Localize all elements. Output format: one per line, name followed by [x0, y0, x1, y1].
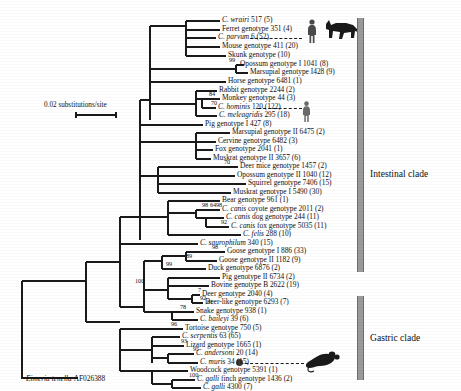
taxon-detail: Deer mice genotype 1457 (2) [240, 161, 327, 170]
taxon-detail: Horse genotype 6481 (1) [228, 76, 302, 85]
taxon-detail: 517 (5) [249, 15, 272, 24]
taxon-detail: 39 (6) [229, 314, 249, 323]
gastric-clade-label: Gastric clade [370, 332, 420, 343]
taxon-label: Skunk genotype (10) [228, 51, 290, 59]
bootstrap-value: 99 [166, 260, 172, 267]
taxon-label: C. wrairi 517 (5) [222, 16, 273, 24]
taxon-detail: 63 (65) [217, 331, 240, 340]
taxon-label: C. baileyi 39 (6) [200, 315, 248, 323]
taxon-label: Horse genotype 6481 (1) [228, 77, 302, 85]
taxon-detail: Monkey genotype 44 (3) [222, 93, 295, 102]
taxon-detail: 295 (18) [263, 110, 290, 119]
taxon-label: Bear genotype 961 (1) [222, 196, 288, 204]
taxon-species-name: C. andersoni [196, 348, 234, 357]
taxon-label: C. felis 288 (10) [243, 230, 291, 238]
mouse-silhouette [304, 350, 340, 374]
taxon-detail: Marsupial genotype I428 (9) [250, 67, 335, 76]
taxon-label: Squirrel genotype 7406 (15) [248, 179, 332, 187]
taxon-species-name: C. canis [226, 212, 250, 221]
taxon-detail: Skunk genotype (10) [228, 50, 290, 59]
taxon-label: Fox genotype 2041 (1) [215, 145, 283, 153]
bootstrap-value: 100 [189, 371, 198, 378]
taxon-detail: 20 (14) [234, 348, 257, 357]
taxon-detail: Bear genotype 961 (1) [222, 195, 288, 204]
taxon-detail: Squirrel genotype 7406 (15) [248, 178, 332, 187]
bootstrap-value: 100 [135, 277, 144, 284]
bootstrap-value: 98 [202, 201, 208, 208]
taxon-label: C. meleagridis 295 (18) [219, 111, 290, 119]
taxon-detail: 288 (10) [264, 229, 291, 238]
bootstrap-value: 81 [207, 298, 213, 305]
bootstrap-value: 95 [193, 345, 199, 352]
taxon-detail: Deer-like genotype 6293 (7) [205, 297, 289, 306]
gastric-clade-bar [357, 296, 364, 380]
taxon-species-name: C. baileyi [200, 314, 229, 323]
taxon-label: Marsupial genotype II 6475 (2) [232, 128, 325, 136]
taxon-detail: Goose genotype I 886 (33) [227, 246, 306, 255]
bootstrap-value: 7 [198, 286, 201, 293]
taxon-detail: Bovine genotype B 2622 (19) [211, 280, 299, 289]
taxon-label: C. andersoni 20 (14) [196, 349, 258, 357]
bootstrap-value: 89 [186, 252, 192, 259]
bootstrap-value: 84 [209, 90, 215, 97]
scale-bar-label: 0.02 substitutions/site [44, 101, 107, 109]
bootstrap-value: 70 [211, 99, 217, 106]
bootstrap-value: 78 [180, 303, 186, 310]
bootstrap-value: 96 [171, 320, 177, 327]
human-silhouette-top [306, 19, 318, 44]
cow-silhouette [324, 18, 360, 44]
taxon-detail: Marsupial genotype II 6475 (2) [232, 127, 325, 136]
taxon-label: Goose genotype I 886 (33) [227, 247, 306, 255]
taxon-detail: Mouse genotype 411 (20) [222, 41, 298, 50]
taxon-detail: 6 (52) [249, 32, 269, 41]
bootstrap-value: 98 [216, 201, 222, 208]
taxon-label: Duck genotype 6876 (2) [208, 264, 280, 272]
intestinal-clade-bar [357, 18, 364, 272]
bootstrap-value: 70 [224, 158, 230, 165]
taxon-label: C. galli 4300 (7) [203, 383, 252, 391]
taxon-detail: Fox genotype 2041 (1) [215, 144, 283, 153]
taxon-detail: dog genotype 244 (11) [250, 212, 319, 221]
outgroup-label: Eimeria tenella AF026388 [26, 374, 105, 383]
taxon-label: Deer mice genotype 1457 (2) [240, 162, 327, 170]
taxon-species-name: C. felis [243, 229, 264, 238]
taxon-species-name: C. serpentis [182, 331, 217, 340]
outgroup-species: Eimeria tenella [26, 374, 72, 383]
taxon-label: Mouse genotype 411 (20) [222, 42, 298, 50]
outgroup-accession: AF026388 [74, 374, 106, 383]
taxon-species-name: C. parvum [218, 32, 249, 41]
bootstrap-value: 92 [221, 218, 227, 225]
taxon-species-name: C. meleagridis [219, 110, 263, 119]
taxon-label: Bovine genotype B 2622 (19) [211, 281, 299, 289]
taxon-label: Marsupial genotype I428 (9) [250, 68, 335, 76]
taxon-detail: 4300 (7) [225, 382, 252, 391]
taxon-species-name: C. wrairi [222, 15, 249, 24]
bootstrap-value: 98 [212, 243, 218, 250]
dash-connector-muris [240, 363, 304, 364]
taxon-label: C. parvum 6 (52) [218, 33, 269, 41]
taxon-detail: Woodcock genotype 5391 (1) [190, 365, 277, 374]
bootstrap-value: 93 [181, 337, 187, 344]
taxon-label: C. canis dog genotype 244 (11) [226, 213, 319, 221]
taxon-label: Monkey genotype 44 (3) [222, 94, 295, 102]
taxon-label: Deer-like genotype 6293 (7) [205, 298, 289, 306]
human-silhouette [301, 101, 312, 123]
bootstrap-value: 92 [200, 294, 206, 301]
taxon-label: C. serpentis 63 (65) [182, 332, 241, 340]
intestinal-clade-label: Intestinal clade [370, 168, 428, 179]
taxon-label: Woodcock genotype 5391 (1) [190, 366, 277, 374]
bootstrap-value: 99 [229, 56, 235, 63]
taxon-detail: Duck genotype 6876 (2) [208, 263, 280, 272]
taxon-species-name: C. galli [203, 382, 225, 391]
